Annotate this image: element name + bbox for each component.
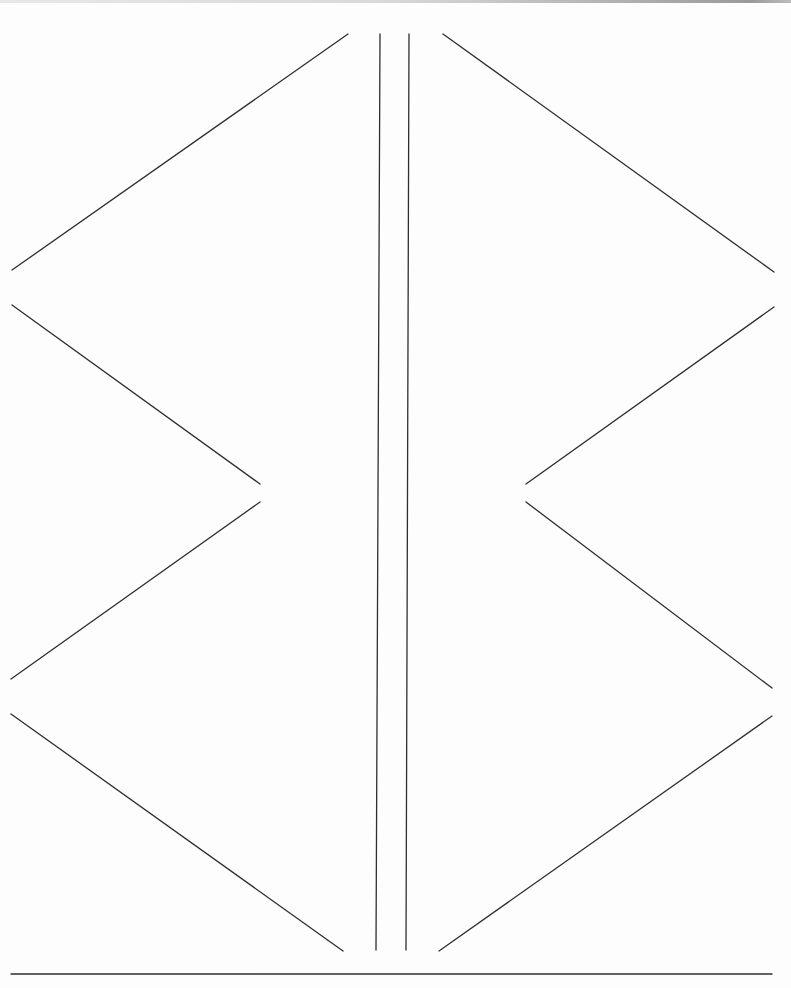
scanned-page [0,0,791,988]
line-art-diagram [0,0,791,988]
right-stroke-1 [443,34,774,272]
center-line-right [406,34,409,950]
center-line-left [376,34,380,950]
center-lines [376,34,409,950]
left-zigzag [11,34,348,951]
left-stroke-2 [12,305,260,484]
left-stroke-1 [12,34,348,270]
left-stroke-3 [11,502,260,679]
right-zigzag [439,34,774,951]
right-stroke-4 [439,716,772,951]
right-stroke-3 [526,502,772,688]
right-stroke-2 [526,307,774,484]
left-stroke-4 [11,714,343,951]
